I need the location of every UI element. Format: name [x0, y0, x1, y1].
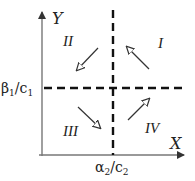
- quadrant-label-ii: II: [62, 33, 74, 49]
- arrow-quadrant-iv-icon: [128, 99, 149, 120]
- x-axis-label: X: [168, 134, 182, 153]
- y-axis-label: Y: [52, 9, 64, 28]
- arrow-quadrant-i-icon: [127, 47, 149, 69]
- x-threshold-label: α2/c2: [95, 159, 129, 177]
- quadrant-label-iv: IV: [144, 120, 161, 136]
- y-threshold-label: β1/c1: [1, 80, 33, 98]
- arrow-quadrant-iii-icon: [78, 107, 100, 128]
- phase-diagram: Y X β1/c1 α2/c2 II I III IV: [0, 0, 195, 181]
- quadrant-label-iii: III: [62, 123, 79, 139]
- arrow-quadrant-ii-icon: [77, 48, 98, 70]
- quadrant-label-i: I: [157, 35, 164, 51]
